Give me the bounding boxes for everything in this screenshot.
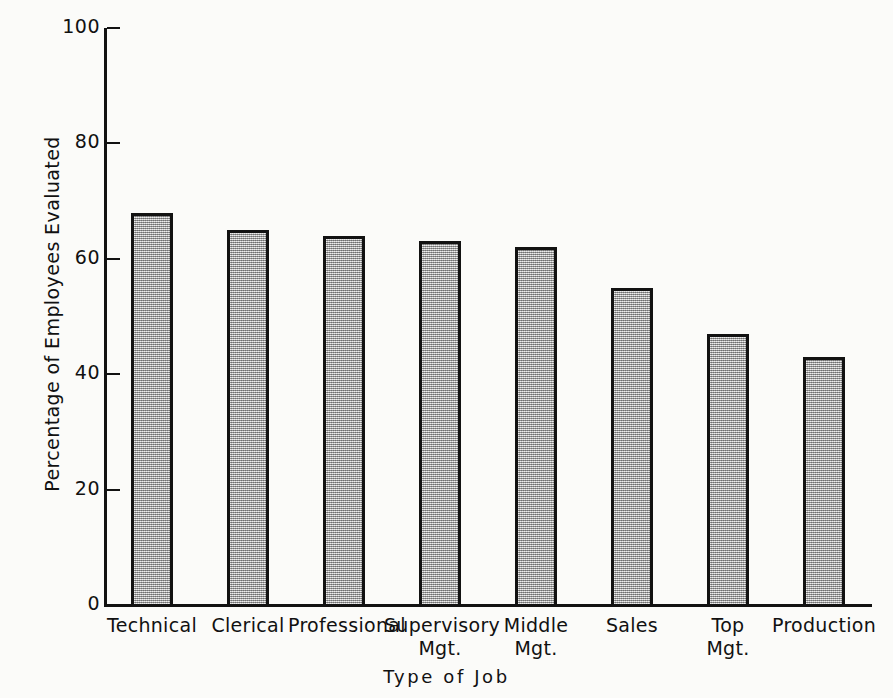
- bar: [419, 241, 461, 607]
- bar: [707, 334, 749, 607]
- y-tick-mark: [107, 489, 120, 491]
- bar: [803, 357, 845, 607]
- x-axis-title: Type of Job: [0, 666, 893, 687]
- bar: [515, 247, 557, 607]
- y-tick-mark: [107, 27, 120, 29]
- bar-chart: 020406080100 TechnicalClericalProfession…: [0, 0, 893, 698]
- bar: [323, 236, 365, 607]
- y-tick-mark: [107, 373, 120, 375]
- y-axis-line: [104, 28, 107, 607]
- chart-page: 020406080100 TechnicalClericalProfession…: [0, 0, 893, 698]
- y-tick-mark: [107, 604, 120, 606]
- y-tick-label: 0: [54, 592, 100, 614]
- y-tick-label: 100: [54, 15, 100, 37]
- bar: [611, 288, 653, 607]
- bar: [131, 213, 173, 607]
- y-tick-mark: [107, 258, 120, 260]
- x-tick-label: Production: [768, 614, 880, 637]
- bar: [227, 230, 269, 607]
- y-axis-title: Percentage of Employees Evaluated: [41, 54, 63, 574]
- y-tick-mark: [107, 142, 120, 144]
- x-axis-line: [104, 604, 872, 607]
